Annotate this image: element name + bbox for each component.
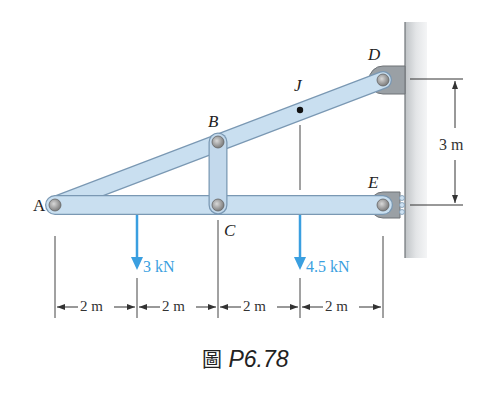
point-j-dot [297, 107, 303, 113]
dimension-label-3: 2 m [243, 299, 266, 314]
label-e: E [368, 174, 378, 191]
load-arrow-3kn [131, 215, 143, 270]
pin-e [377, 199, 389, 211]
load-arrow-4-5kn [294, 215, 306, 270]
load-label-3kn: 3 kN [143, 259, 175, 275]
pin-a [49, 199, 61, 211]
dimension-label-vertical: 3 m [439, 137, 463, 153]
caption-number: P6.78 [228, 346, 288, 372]
label-a: A [33, 197, 45, 214]
dimension-label-4: 2 m [325, 299, 348, 314]
wall [405, 22, 427, 258]
pin-c [212, 199, 224, 211]
dimension-label-1: 2 m [80, 299, 103, 314]
label-d: D [368, 46, 380, 63]
label-j: J [294, 77, 302, 94]
caption-prefix: 圖 [202, 348, 222, 372]
pin-b [212, 136, 224, 148]
load-label-4-5kn: 4.5 kN [306, 259, 350, 275]
figure-caption: 圖P6.78 [0, 344, 491, 373]
dimension-label-2: 2 m [162, 299, 185, 314]
frame-diagram [0, 0, 491, 397]
pin-d [377, 74, 389, 86]
label-c: C [224, 222, 235, 239]
label-b: B [208, 113, 218, 130]
